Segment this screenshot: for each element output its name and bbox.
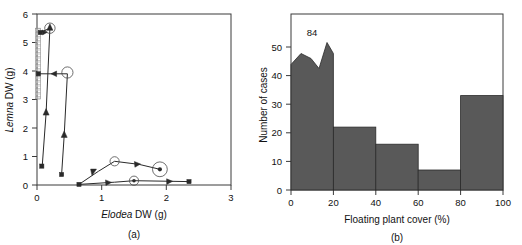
panel-b-x-axis: 0 20 40 60 80 100 (288, 190, 511, 208)
arrow-marker-up (43, 109, 49, 116)
panel-a-svg: 0 1 2 3 4 5 6 0 1 2 3 (0, 0, 261, 245)
panel-a-xtick-1: 1 (99, 192, 104, 203)
trajectory-2 (60, 67, 74, 177)
panel-b-x-axis-title: Floating plant cover (%) (344, 214, 450, 225)
data-point-marker (187, 180, 191, 184)
panel-a-ytick-4: 4 (23, 66, 28, 77)
panel-a-y-axis: 0 1 2 3 4 5 6 (23, 9, 37, 191)
panel-b-ytick-10: 10 (271, 156, 282, 167)
panel-b-svg: 0 10 20 30 40 50 0 20 40 60 80 100 (255, 0, 522, 245)
panel-a-ytick-5: 5 (23, 37, 28, 48)
arrow-marker-up (61, 131, 67, 138)
histogram-bar-80-100 (461, 96, 503, 190)
panel-a-xtick-2: 2 (164, 192, 169, 203)
histogram-bar-0-20-truncated (291, 43, 333, 191)
panel-b-xtick-80: 80 (455, 197, 466, 208)
panel-a-scatter: 0 1 2 3 4 5 6 0 1 2 3 (0, 0, 261, 245)
panel-a-ytick-6: 6 (23, 9, 28, 20)
panel-a-ytick-2: 2 (23, 123, 28, 134)
panel-b-ytick-40: 40 (271, 70, 282, 81)
data-point-marker (132, 179, 136, 183)
panel-b-y-axis-title: Number of cases (258, 67, 269, 143)
panel-a-x-axis-title-genus: Elodea (101, 209, 133, 220)
panel-b-histogram: 0 10 20 30 40 50 0 20 40 60 80 100 (255, 0, 522, 245)
panel-b-xtick-0: 0 (288, 197, 293, 208)
data-point-marker (38, 30, 42, 34)
histogram-bar-60-80 (418, 170, 460, 190)
panel-b-ytick-0: 0 (277, 185, 282, 196)
panel-a-y-axis-title: Lemna DW (g) (4, 67, 15, 132)
panel-a-ytick-3: 3 (23, 94, 28, 105)
data-point-marker (60, 172, 64, 176)
panel-a-y-axis-title-rest: DW (g) (4, 67, 15, 101)
trajectory-4 (79, 176, 191, 185)
panel-a-x-axis-title: Elodea DW (g) (101, 209, 167, 220)
arrow-marker-right (134, 162, 140, 168)
panel-a-ytick-0: 0 (23, 180, 28, 191)
panel-a-xtick-3: 3 (228, 192, 233, 203)
panel-a-letter: (a) (128, 229, 140, 240)
panel-a-x-axis: 0 1 2 3 (34, 185, 233, 203)
panel-b-ytick-50: 50 (271, 42, 282, 53)
panel-b-xtick-100: 100 (495, 197, 511, 208)
hatched-band-annotation (36, 28, 41, 99)
figure-two-panel: 0 1 2 3 4 5 6 0 1 2 3 (0, 0, 522, 245)
panel-a-y-axis-title-genus: Lemna (4, 102, 15, 133)
data-point-marker (158, 167, 162, 171)
arrow-marker-left (51, 71, 57, 77)
panel-a-x-axis-title-rest: DW (g) (132, 209, 166, 220)
arrow-marker-right (167, 179, 173, 185)
data-point-marker (40, 164, 44, 168)
panel-b-xtick-20: 20 (328, 197, 339, 208)
panel-a-xtick-0: 0 (34, 192, 39, 203)
data-point-marker (36, 72, 40, 76)
trajectory-1 (40, 23, 55, 168)
panel-b-xtick-60: 60 (413, 197, 424, 208)
panel-a-ytick-1: 1 (23, 151, 28, 162)
histogram-bar-20-40 (333, 127, 375, 190)
panel-b-y-axis: 0 10 20 30 40 50 (271, 42, 291, 196)
panel-b-ytick-20: 20 (271, 127, 282, 138)
histogram-bar-0-20-value-label: 84 (307, 27, 318, 38)
panel-b-ytick-30: 30 (271, 99, 282, 110)
histogram-bar-40-60 (376, 144, 418, 190)
panel-b-xtick-40: 40 (371, 197, 382, 208)
panel-b-letter: (b) (391, 232, 403, 243)
